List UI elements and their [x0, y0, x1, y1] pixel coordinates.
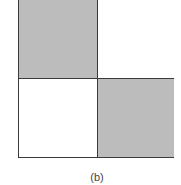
cell-top-left [19, 0, 98, 79]
figure-label: (b) [0, 171, 181, 183]
cell-bottom-right [98, 79, 174, 157]
cell-top-right [98, 0, 174, 79]
cell-bottom-left [19, 79, 98, 157]
checkerboard-grid [18, 0, 174, 158]
